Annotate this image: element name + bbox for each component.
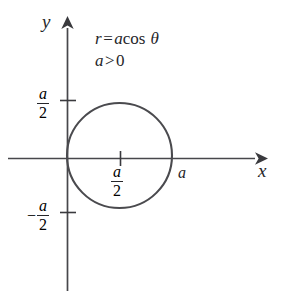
x-axis-label: x	[258, 161, 266, 180]
equation-coefficient: a	[114, 29, 123, 48]
fraction-denominator: 2	[37, 103, 49, 122]
equation-annotation: r=acosθ a>0	[95, 28, 159, 73]
equation-lhs: r	[95, 29, 102, 48]
equation-equals: =	[102, 29, 115, 48]
tick-label-y-positive: a 2	[37, 86, 49, 122]
fraction-numerator: a	[111, 164, 123, 181]
condition-relation: >	[104, 51, 117, 70]
fraction-a-over-2: a 2	[111, 164, 123, 200]
minus-sign: −	[27, 207, 36, 225]
equation-variable-theta: θ	[145, 29, 158, 48]
condition-value: 0	[116, 51, 125, 70]
equation-line-1: r=acosθ	[95, 28, 159, 50]
y-axis-arrowhead	[61, 16, 73, 29]
condition-variable: a	[95, 51, 104, 70]
fraction-numerator: a	[37, 198, 49, 215]
equation-line-2: a>0	[95, 50, 159, 72]
fraction-denominator: 2	[37, 215, 49, 234]
tick-label-x-center: a 2	[111, 164, 123, 200]
polar-curve-figure: y x r=acosθ a>0 a 2 − a 2 a 2 a	[0, 0, 283, 304]
tick-label-y-negative: − a 2	[27, 198, 49, 234]
fraction-denominator: 2	[111, 181, 123, 200]
fraction-numerator: a	[37, 86, 49, 103]
fraction-a-over-2: a 2	[37, 198, 49, 234]
tick-label-x-intercept: a	[178, 165, 186, 181]
y-axis-label: y	[42, 12, 50, 31]
equation-function: cos	[123, 29, 146, 48]
fraction-a-over-2: a 2	[37, 86, 49, 122]
